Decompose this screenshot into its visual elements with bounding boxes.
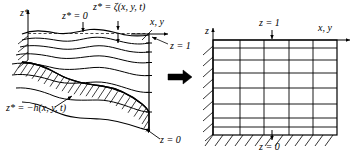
free-surface-label: z* = ζ(x, y, t) [93, 2, 145, 12]
right-bottom-label: z = 0 [259, 142, 280, 152]
right-vertical-axis-label: z [205, 26, 209, 36]
diagram-canvas [0, 0, 357, 155]
grid-horizontal-lines [213, 48, 337, 127]
left-bottom-mapped-label: z = 0 [160, 135, 181, 145]
left-top-mapped-label: z = 1 [170, 41, 191, 51]
figure-container: z* z* = 0 z* = ζ(x, y, t) x, y z = 1 z* … [0, 0, 357, 155]
grid-vertical-lines [240, 40, 313, 135]
right-panel-graphics [203, 28, 350, 146]
left-vertical-axis-label: z* [20, 8, 29, 18]
right-horizontal-axis-label: x, y [318, 23, 332, 33]
bottom-hatching-left [14, 62, 149, 132]
left-wall-hatching-right [203, 46, 213, 141]
left-horizontal-axis-label: x, y [150, 17, 164, 27]
bottom-bathymetry-label: z* = −h(x, y, t) [6, 103, 66, 113]
still-level-label: z* = 0 [62, 11, 88, 21]
transform-arrow-icon [168, 70, 192, 84]
right-top-label: z = 1 [259, 18, 280, 28]
left-panel-graphics [12, 10, 168, 139]
